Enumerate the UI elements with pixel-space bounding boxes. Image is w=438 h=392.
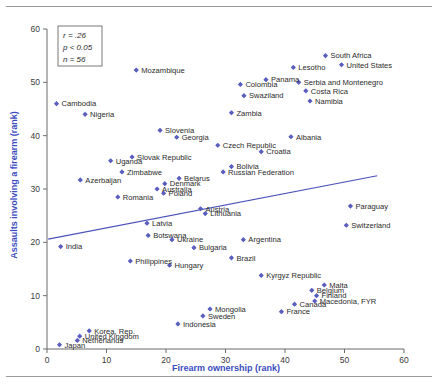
scatter-plot: 01020304050600102030405060 MozambiqueSou… bbox=[0, 0, 438, 392]
scatter-point-label: Zambia bbox=[236, 109, 262, 118]
data-point-labels-group: MozambiqueSouth AfricaLesothoUnited Stat… bbox=[62, 51, 393, 349]
scatter-marker-core bbox=[135, 69, 138, 72]
scatter-marker-core bbox=[260, 150, 263, 153]
scatter-marker-core bbox=[109, 159, 112, 162]
scatter-marker-core bbox=[289, 135, 292, 138]
stats-p-value: p < 0.05 bbox=[62, 43, 93, 52]
scatter-marker-core bbox=[230, 111, 233, 114]
scatter-point-label: Macedonia, FYR bbox=[320, 297, 377, 306]
y-axis-tick-label: 0 bbox=[35, 344, 40, 354]
scatter-marker-core bbox=[308, 100, 311, 103]
scatter-marker-core bbox=[116, 196, 119, 199]
scatter-marker-core bbox=[78, 335, 81, 338]
scatter-point-label: Slovak Republic bbox=[137, 153, 192, 162]
scatter-point-label: Azerbaijan bbox=[85, 176, 121, 185]
scatter-marker-core bbox=[84, 113, 87, 116]
scatter-marker-core bbox=[292, 66, 295, 69]
scatter-point-label: Netherlands bbox=[82, 336, 123, 345]
scatter-marker-core bbox=[79, 178, 82, 181]
x-axis-title: Firearm ownership (rank) bbox=[172, 363, 280, 373]
scatter-point-label: Namibia bbox=[315, 97, 344, 106]
scatter-point-label: Kyrgyz Republic bbox=[266, 271, 321, 280]
figure-container: 01020304050600102030405060 MozambiqueSou… bbox=[0, 0, 438, 392]
scatter-point-label: Indonesia bbox=[183, 320, 217, 329]
y-axis-tick-label: 20 bbox=[31, 237, 41, 247]
scatter-marker-core bbox=[59, 245, 62, 248]
scatter-point-label: Nigeria bbox=[90, 110, 115, 119]
scatter-point-label: Japan bbox=[64, 341, 85, 350]
scatter-point-label: Colombia bbox=[245, 80, 278, 89]
scatter-marker-core bbox=[120, 170, 123, 173]
scatter-point-label: Cambodia bbox=[62, 99, 97, 108]
scatter-marker-core bbox=[175, 136, 178, 139]
scatter-marker-core bbox=[242, 94, 245, 97]
scatter-marker-core bbox=[58, 343, 61, 346]
scatter-marker-core bbox=[222, 170, 225, 173]
scatter-marker-core bbox=[280, 310, 283, 313]
stats-n-value: n = 56 bbox=[63, 55, 86, 64]
scatter-marker-core bbox=[239, 83, 242, 86]
scatter-marker-core bbox=[192, 246, 195, 249]
x-axis-tick-label: 50 bbox=[340, 355, 350, 365]
scatter-marker-core bbox=[293, 303, 296, 306]
scatter-marker-core bbox=[230, 256, 233, 259]
scatter-point-label: Albania bbox=[296, 133, 322, 142]
scatter-marker-core bbox=[345, 224, 348, 227]
scatter-point-label: Croatia bbox=[266, 147, 291, 156]
scatter-marker-core bbox=[147, 234, 150, 237]
scatter-point-label: Philippines bbox=[135, 257, 172, 266]
y-axis-tick-label: 50 bbox=[31, 77, 41, 87]
scatter-point-label: Paraguay bbox=[355, 202, 388, 211]
scatter-point-label: Uganda bbox=[116, 157, 143, 166]
scatter-marker-core bbox=[242, 238, 245, 241]
scatter-marker-core bbox=[310, 289, 313, 292]
y-axis-tick-label: 40 bbox=[31, 131, 41, 141]
scatter-marker-core bbox=[216, 144, 219, 147]
scatter-point-label: Lithuania bbox=[210, 209, 242, 218]
scatter-point-label: Argentina bbox=[248, 235, 281, 244]
scatter-point-label: Lesotho bbox=[298, 63, 325, 72]
stats-box: r = .26 p < 0.05 n = 56 bbox=[58, 26, 102, 66]
scatter-point-label: South Africa bbox=[330, 51, 372, 60]
scatter-marker-core bbox=[201, 314, 204, 317]
x-axis-tick-label: 60 bbox=[399, 355, 409, 365]
scatter-point-label: United States bbox=[347, 61, 393, 70]
x-axis-tick-label: 10 bbox=[102, 355, 112, 365]
y-axis-tick-label: 30 bbox=[31, 184, 41, 194]
scatter-marker-core bbox=[304, 89, 307, 92]
x-axis-tick-label: 40 bbox=[280, 355, 290, 365]
scatter-point-label: Zimbabwe bbox=[127, 168, 162, 177]
stats-r-value: r = .26 bbox=[63, 31, 86, 40]
scatter-point-label: Romania bbox=[123, 193, 154, 202]
scatter-point-label: Latvia bbox=[152, 219, 173, 228]
scatter-point-label: India bbox=[66, 242, 83, 251]
scatter-marker-core bbox=[199, 207, 202, 210]
scatter-point-label: Switzerland bbox=[351, 221, 390, 230]
scatter-marker-core bbox=[340, 63, 343, 66]
scatter-marker-core bbox=[260, 274, 263, 277]
scatter-point-label: Swaziland bbox=[249, 91, 284, 100]
scatter-marker-core bbox=[324, 54, 327, 57]
scatter-marker-core bbox=[55, 102, 58, 105]
scatter-point-label: France bbox=[286, 307, 310, 316]
scatter-point-label: Brazil bbox=[236, 254, 255, 263]
scatter-marker-core bbox=[209, 308, 212, 311]
y-axis-tick-label: 10 bbox=[31, 291, 41, 301]
scatter-marker-core bbox=[129, 260, 132, 263]
scatter-point-label: Bulgaria bbox=[199, 243, 228, 252]
scatter-point-label: Hungary bbox=[175, 261, 204, 270]
x-axis-tick-label: 20 bbox=[161, 355, 171, 365]
scatter-point-label: Mozambique bbox=[141, 66, 184, 75]
x-axis-tick-label: 0 bbox=[45, 355, 50, 365]
scatter-marker-core bbox=[176, 322, 179, 325]
scatter-point-label: Russian Federation bbox=[228, 168, 294, 177]
scatter-marker-core bbox=[159, 129, 162, 132]
scatter-marker-core bbox=[156, 188, 159, 191]
scatter-point-label: Poland bbox=[169, 189, 193, 198]
y-axis-title: Assaults involving a firearm (rank) bbox=[9, 111, 19, 259]
scatter-point-label: Georgia bbox=[182, 133, 210, 142]
scatter-marker-core bbox=[145, 222, 148, 225]
scatter-marker-core bbox=[349, 205, 352, 208]
scatter-point-label: Costa Rica bbox=[311, 87, 349, 96]
y-axis-tick-label: 60 bbox=[31, 24, 41, 34]
